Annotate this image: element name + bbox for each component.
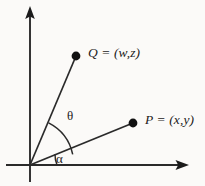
angle-label-alpha: α — [56, 151, 63, 167]
point-dot-p — [129, 119, 138, 128]
angle-label-theta: θ — [67, 108, 73, 124]
point-dot-q — [72, 52, 81, 61]
figure-canvas — [0, 0, 205, 186]
point-label-p: P = (x,y) — [145, 112, 194, 128]
point-label-q: Q = (w,z) — [88, 45, 140, 61]
geometry-figure: Q = (w,z) P = (x,y) θ α — [0, 0, 205, 186]
